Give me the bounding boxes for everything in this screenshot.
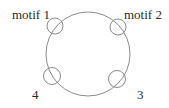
motif-1-label: motif 1 xyxy=(12,7,50,22)
motif-3-label: 3 xyxy=(137,87,144,102)
motif-2-label: motif 2 xyxy=(124,7,162,22)
motif-4-label: 4 xyxy=(32,87,39,102)
motif-ring-diagram: motif 1 motif 2 3 4 xyxy=(0,0,169,108)
main-ring-circle xyxy=(46,12,130,96)
motif-4-group: 4 xyxy=(32,68,61,103)
motif-3-group: 3 xyxy=(109,71,144,103)
motif-2-group: motif 2 xyxy=(110,7,162,35)
motif-1-group: motif 1 xyxy=(12,7,63,34)
